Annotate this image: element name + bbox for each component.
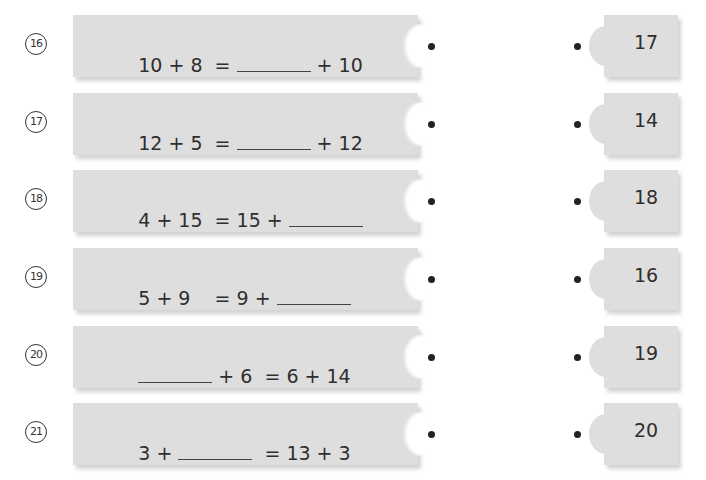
exercise-number: 21 bbox=[25, 421, 47, 443]
answer-blank[interactable] bbox=[237, 52, 311, 72]
left-match-dot[interactable] bbox=[428, 276, 435, 283]
right-match-dot[interactable] bbox=[574, 431, 581, 438]
equation: + 6 = 6 + 14 bbox=[102, 341, 351, 409]
answer-blank[interactable] bbox=[237, 130, 311, 150]
answer-blank[interactable] bbox=[138, 363, 212, 383]
equation: 4 + 15 = 15 + bbox=[102, 185, 363, 253]
exercise-row: 16 10 + 8 = + 10 17 bbox=[0, 15, 706, 79]
left-match-dot[interactable] bbox=[428, 431, 435, 438]
answer-blank[interactable] bbox=[277, 285, 351, 305]
answer-value: 19 bbox=[604, 342, 678, 364]
exercise-row: 20 + 6 = 6 + 14 19 bbox=[0, 326, 706, 390]
left-match-dot[interactable] bbox=[428, 43, 435, 50]
left-match-dot[interactable] bbox=[428, 198, 435, 205]
left-match-dot[interactable] bbox=[428, 354, 435, 361]
exercise-row: 18 4 + 15 = 15 + 18 bbox=[0, 170, 706, 234]
exercise-row: 19 5 + 9 = 9 + 16 bbox=[0, 248, 706, 312]
exercise-number: 20 bbox=[25, 344, 47, 366]
exercise-number: 18 bbox=[25, 188, 47, 210]
answer-blank[interactable] bbox=[289, 207, 363, 227]
answer-value: 20 bbox=[604, 419, 678, 441]
equation: 3 + = 13 + 3 bbox=[102, 418, 351, 480]
right-match-dot[interactable] bbox=[574, 43, 581, 50]
exercise-number: 16 bbox=[25, 33, 47, 55]
answer-value: 16 bbox=[604, 264, 678, 286]
exercise-number: 17 bbox=[25, 111, 47, 133]
answer-value: 14 bbox=[604, 109, 678, 131]
left-match-dot[interactable] bbox=[428, 121, 435, 128]
answer-blank[interactable] bbox=[178, 440, 252, 460]
right-match-dot[interactable] bbox=[574, 354, 581, 361]
exercise-number: 19 bbox=[25, 266, 47, 288]
right-match-dot[interactable] bbox=[574, 276, 581, 283]
exercise-row: 21 3 + = 13 + 3 20 bbox=[0, 403, 706, 467]
right-match-dot[interactable] bbox=[574, 198, 581, 205]
equation: 5 + 9 = 9 + bbox=[102, 263, 351, 331]
equation: 12 + 5 = + 12 bbox=[102, 108, 363, 176]
right-match-dot[interactable] bbox=[574, 121, 581, 128]
answer-value: 17 bbox=[604, 31, 678, 53]
answer-value: 18 bbox=[604, 186, 678, 208]
equation: 10 + 8 = + 10 bbox=[102, 30, 363, 98]
exercise-row: 17 12 + 5 = + 12 14 bbox=[0, 93, 706, 157]
